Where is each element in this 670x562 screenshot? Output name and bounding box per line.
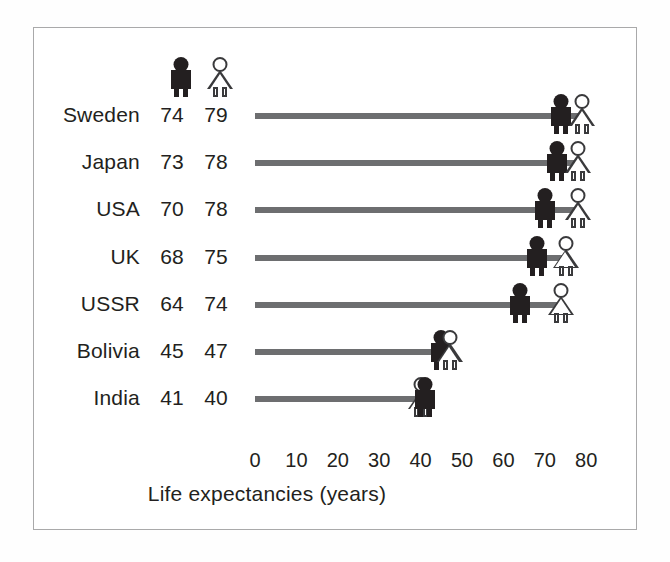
row-male-figure-icon [412, 377, 438, 417]
row-female-value: 78 [196, 150, 236, 174]
row-male-figure-icon [507, 283, 533, 323]
x-axis-tick-label: 30 [368, 448, 390, 472]
row-male-value: 68 [152, 245, 192, 269]
row-male-value: 70 [152, 197, 192, 221]
row-connector-line [255, 207, 578, 213]
row-male-figure-icon [524, 236, 550, 276]
row-connector-line [255, 255, 566, 261]
row-category-label: Japan [0, 150, 140, 174]
row-category-label: UK [0, 245, 140, 269]
female-leg-right-icon [580, 171, 585, 181]
female-leg-left-icon [571, 171, 576, 181]
row-female-value: 78 [196, 197, 236, 221]
chart-row: India4140 [0, 386, 670, 433]
row-female-figure-icon [565, 188, 591, 228]
x-axis-tick-label: 0 [249, 448, 260, 472]
male-leg-right-icon [563, 124, 568, 134]
male-leg-left-icon [554, 124, 559, 134]
row-male-value: 41 [152, 386, 192, 410]
female-leg-left-icon [559, 266, 564, 276]
female-leg-right-icon [584, 124, 589, 134]
x-axis-tick-label: 50 [451, 448, 473, 472]
row-connector-line [255, 349, 450, 355]
chart-row: Bolivia4547 [0, 339, 670, 386]
row-category-label: USSR [0, 292, 140, 316]
row-female-figure-icon [437, 330, 463, 370]
x-axis-tick-label: 80 [575, 448, 597, 472]
female-leg-left-icon [575, 124, 580, 134]
x-axis-tick-label: 40 [409, 448, 431, 472]
male-leg-left-icon [174, 87, 179, 97]
row-female-value: 40 [196, 386, 236, 410]
row-female-figure-icon [548, 283, 574, 323]
x-axis-tick-label: 60 [492, 448, 514, 472]
female-leg-left-icon [213, 87, 218, 97]
female-leg-right-icon [222, 87, 227, 97]
x-axis-tick-label: 20 [327, 448, 349, 472]
row-male-value: 73 [152, 150, 192, 174]
female-leg-right-icon [452, 360, 457, 370]
row-connector-line [255, 113, 582, 119]
male-leg-left-icon [538, 218, 543, 228]
row-female-figure-icon [565, 141, 591, 181]
male-leg-left-icon [418, 407, 423, 417]
legend-female-figure-icon [207, 57, 233, 97]
male-leg-right-icon [427, 407, 432, 417]
row-category-label: Bolivia [0, 339, 140, 363]
row-female-figure-icon [553, 236, 579, 276]
male-leg-right-icon [539, 266, 544, 276]
male-leg-left-icon [550, 171, 555, 181]
row-female-value: 74 [196, 292, 236, 316]
female-leg-right-icon [568, 266, 573, 276]
row-category-label: India [0, 386, 140, 410]
male-leg-left-icon [513, 313, 518, 323]
female-leg-right-icon [580, 218, 585, 228]
row-male-value: 45 [152, 339, 192, 363]
row-category-label: USA [0, 197, 140, 221]
x-axis-tick-label: 10 [285, 448, 307, 472]
male-leg-left-icon [530, 266, 535, 276]
row-category-label: Sweden [0, 103, 140, 127]
row-connector-line [255, 160, 578, 166]
chart-figure: Sweden7479Japan7378USA7078UK6875USSR6474… [0, 0, 670, 562]
female-leg-left-icon [554, 313, 559, 323]
female-leg-left-icon [443, 360, 448, 370]
row-male-figure-icon [532, 188, 558, 228]
row-female-value: 79 [196, 103, 236, 127]
female-leg-right-icon [563, 313, 568, 323]
male-leg-right-icon [547, 218, 552, 228]
x-axis-tick-label: 70 [534, 448, 556, 472]
legend-male-figure-icon [168, 57, 194, 97]
x-axis-title: Life expectancies (years) [0, 482, 670, 506]
chart-row: USSR6474 [0, 292, 670, 339]
male-leg-right-icon [522, 313, 527, 323]
row-female-value: 75 [196, 245, 236, 269]
row-female-value: 47 [196, 339, 236, 363]
row-connector-line [255, 396, 425, 402]
male-leg-right-icon [183, 87, 188, 97]
row-male-value: 74 [152, 103, 192, 127]
row-female-figure-icon [569, 94, 595, 134]
male-leg-right-icon [559, 171, 564, 181]
female-leg-left-icon [571, 218, 576, 228]
row-male-value: 64 [152, 292, 192, 316]
